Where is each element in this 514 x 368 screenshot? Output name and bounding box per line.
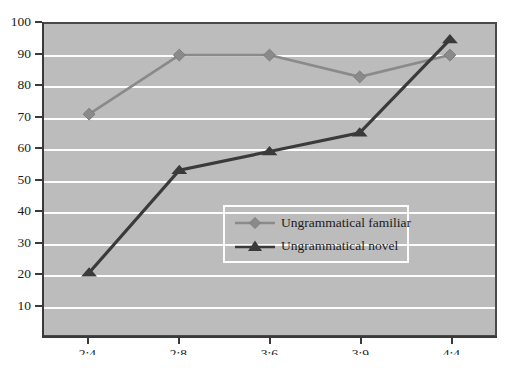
series-1: [83, 49, 456, 120]
y-tick-mark: [35, 21, 42, 23]
x-tick-mark: [178, 337, 180, 344]
y-tick-label: 40: [18, 201, 32, 221]
x-tick-mark: [451, 337, 453, 344]
y-tick-mark: [35, 210, 42, 212]
series-line: [89, 55, 450, 114]
scan-artifact-strip: [0, 355, 514, 368]
y-tick-label: 70: [18, 107, 32, 127]
triangle-data-point: [442, 34, 458, 43]
y-tick-mark: [35, 305, 42, 307]
y-tick-label: 50: [18, 170, 32, 190]
y-tick-label: 100: [11, 12, 31, 32]
y-tick-label: 10: [18, 296, 32, 316]
plot-area: [42, 22, 497, 337]
legend-label: Ungrammatical familiar: [281, 215, 411, 231]
y-axis-line: [42, 22, 44, 337]
diamond-data-point: [264, 49, 276, 61]
series-layer: [44, 24, 495, 335]
x-tick-mark: [87, 337, 89, 344]
diamond-data-point: [444, 49, 456, 61]
y-tick-mark: [35, 53, 42, 55]
line-chart: 102030405060708090100 2;42;83;63;94;4 Un…: [0, 0, 514, 368]
y-tick-mark: [35, 242, 42, 244]
y-tick-mark: [35, 147, 42, 149]
legend: Ungrammatical familiar Ungrammatical nov…: [223, 205, 409, 263]
y-tick-label: 90: [18, 44, 32, 64]
legend-item-ungrammatical-familiar: Ungrammatical familiar: [233, 212, 411, 234]
legend-label: Ungrammatical novel: [281, 238, 398, 254]
diamond-data-point: [354, 71, 366, 83]
y-tick-label: 60: [18, 138, 32, 158]
x-tick-mark: [360, 337, 362, 344]
y-tick-label: 20: [18, 264, 32, 284]
y-tick-mark: [35, 84, 42, 86]
legend-item-ungrammatical-novel: Ungrammatical novel: [233, 235, 398, 257]
y-tick-label: 80: [18, 75, 32, 95]
x-tick-mark: [269, 337, 271, 344]
y-tick-mark: [35, 273, 42, 275]
y-tick-mark: [35, 179, 42, 181]
diamond-marker-icon: [233, 215, 277, 231]
y-tick-label: 30: [18, 233, 32, 253]
triangle-marker-icon: [233, 238, 277, 254]
y-tick-mark: [35, 116, 42, 118]
